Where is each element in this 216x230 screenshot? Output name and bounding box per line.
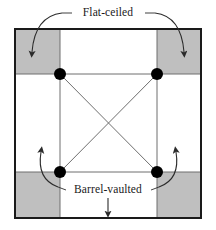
- corner-bay-top-left: [15, 29, 60, 74]
- pier-bottom-left-dot: [54, 166, 66, 178]
- corner-bay-bottom-left: [15, 172, 60, 218]
- figure-container: Flat-ceiled Barrel-vaulted: [0, 0, 216, 230]
- pier-top-right-dot: [151, 68, 163, 80]
- pier-bottom-right-dot: [151, 166, 163, 178]
- pier-top-left-dot: [54, 68, 66, 80]
- corner-bay-top-right: [157, 29, 201, 74]
- corner-bay-bottom-right: [157, 172, 201, 218]
- plan-diagram: Flat-ceiled Barrel-vaulted: [0, 0, 216, 230]
- flat-ceiled-label: Flat-ceiled: [83, 6, 133, 18]
- barrel-vaulted-label: Barrel-vaulted: [74, 183, 142, 195]
